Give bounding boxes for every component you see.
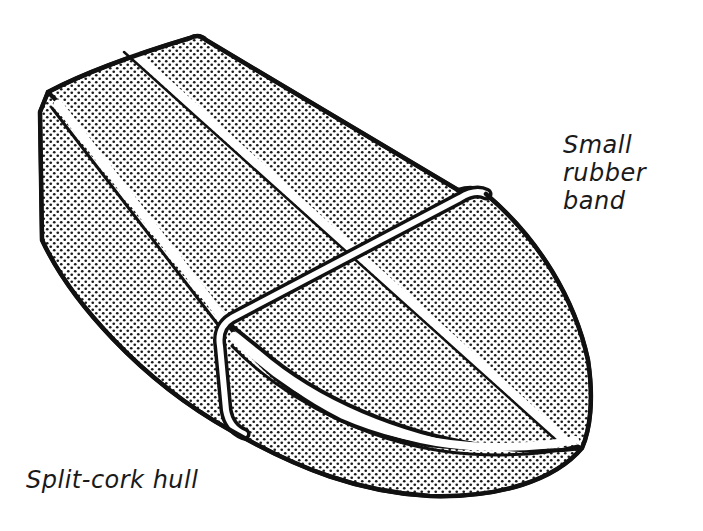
split-cork-hull-illustration [0,0,703,531]
rubber-band-label-line-1: Small [563,131,703,159]
rubber-band-label-line-2: rubber [563,159,703,187]
rubber-band-label: Small rubber band [563,131,703,215]
rubber-band-label-line-3: band [563,187,703,215]
hull-label: Split-cork hull [26,466,198,494]
